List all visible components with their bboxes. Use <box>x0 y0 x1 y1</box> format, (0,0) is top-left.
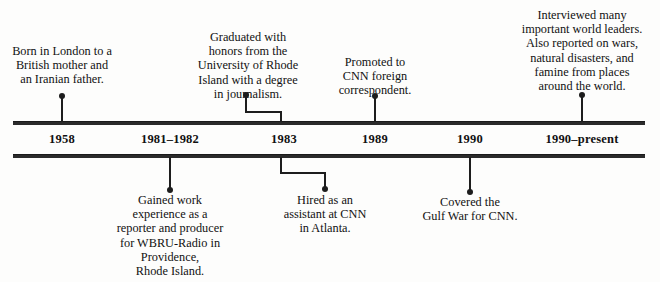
connector-line-promoted <box>374 96 376 122</box>
connector-dot-interviewed <box>579 92 585 98</box>
connector-line-hired-cnn-turn <box>280 172 326 174</box>
connector-dot-born <box>59 93 65 99</box>
connector-dot-hired-cnn <box>322 186 328 192</box>
year-label-1958: 1958 <box>49 130 75 148</box>
event-caption-work-experience: Gained work experience as a reporter and… <box>101 193 239 278</box>
connector-line-work-experience <box>169 157 171 190</box>
event-caption-promoted: Promoted to CNN foreign correspondent. <box>323 55 427 98</box>
timeline-rule-bottom <box>13 154 645 158</box>
event-caption-hired-cnn: Hired as an assistant at CNN in Atlanta. <box>269 193 381 236</box>
connector-dot-graduated <box>243 92 249 98</box>
connector-line-interviewed <box>581 95 583 122</box>
connector-line-gulf-war <box>469 157 471 192</box>
event-caption-gulf-war: Covered the Gulf War for CNN. <box>410 195 530 223</box>
year-label-1981-1982: 1981–1982 <box>141 130 199 148</box>
connector-line-graduated-turn <box>245 111 282 113</box>
timeline-rule-top <box>13 121 645 125</box>
year-label-1990: 1990 <box>457 130 483 148</box>
connector-line-born <box>61 96 63 122</box>
connector-line-graduated-stem <box>280 111 282 122</box>
event-caption-born: Born in London to a British mother and a… <box>0 44 124 87</box>
event-caption-interviewed: Interviewed many important world leaders… <box>506 8 658 93</box>
year-label-1989: 1989 <box>362 130 388 148</box>
year-label-1990-present: 1990–present <box>546 130 619 148</box>
connector-dot-promoted <box>372 93 378 99</box>
event-caption-graduated: Graduated with honors from the Universit… <box>182 30 314 101</box>
year-label-1983: 1983 <box>271 130 297 148</box>
timeline-figure: 1958 1981–1982 1983 1989 1990 1990–prese… <box>0 0 660 282</box>
